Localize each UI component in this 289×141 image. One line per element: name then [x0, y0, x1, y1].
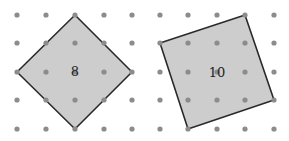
grid-dot — [185, 12, 190, 17]
grid-dot — [214, 97, 219, 102]
grid-dot — [242, 40, 247, 45]
grid-dot — [129, 126, 134, 131]
grid-dot — [242, 12, 247, 17]
grid-dot — [157, 69, 162, 74]
grid-dot — [157, 40, 162, 45]
grid-dot — [43, 69, 48, 74]
grid-dot — [101, 12, 106, 17]
grid-dot — [72, 97, 77, 102]
grid-dot — [214, 12, 219, 17]
grid-dot — [43, 40, 48, 45]
grid-dot — [271, 126, 276, 131]
grid-dot — [14, 97, 19, 102]
grid-dot — [157, 12, 162, 17]
grid-dot — [101, 97, 106, 102]
grid-dot — [14, 126, 19, 131]
left-area-label: 8 — [71, 64, 79, 79]
grid-dot — [43, 97, 48, 102]
grid-dot — [72, 40, 77, 45]
grid-dot — [271, 97, 276, 102]
grid-dot — [129, 40, 134, 45]
grid-dot — [242, 69, 247, 74]
grid-dot — [72, 12, 77, 17]
left-figure: 8 — [14, 12, 134, 131]
grid-dot — [157, 126, 162, 131]
grid-dot — [271, 12, 276, 17]
grid-dot — [129, 69, 134, 74]
grid-dot — [157, 97, 162, 102]
grid-dot — [72, 126, 77, 131]
grid-dot — [129, 12, 134, 17]
grid-dot — [101, 69, 106, 74]
grid-dot — [101, 40, 106, 45]
right-figure: 10 — [157, 12, 276, 131]
dot-grid-diagram: 8 10 — [0, 0, 289, 141]
grid-dot — [214, 126, 219, 131]
grid-dot — [185, 126, 190, 131]
grid-dot — [271, 69, 276, 74]
grid-dot — [14, 69, 19, 74]
grid-dot — [14, 12, 19, 17]
grid-dot — [14, 40, 19, 45]
grid-dot — [185, 40, 190, 45]
grid-dot — [185, 69, 190, 74]
grid-dot — [271, 40, 276, 45]
grid-dot — [242, 97, 247, 102]
right-area-label: 10 — [209, 65, 226, 80]
grid-dot — [43, 12, 48, 17]
grid-dot — [101, 126, 106, 131]
grid-dot — [129, 97, 134, 102]
grid-dot — [214, 40, 219, 45]
grid-dot — [242, 126, 247, 131]
grid-dot — [185, 97, 190, 102]
grid-dot — [43, 126, 48, 131]
